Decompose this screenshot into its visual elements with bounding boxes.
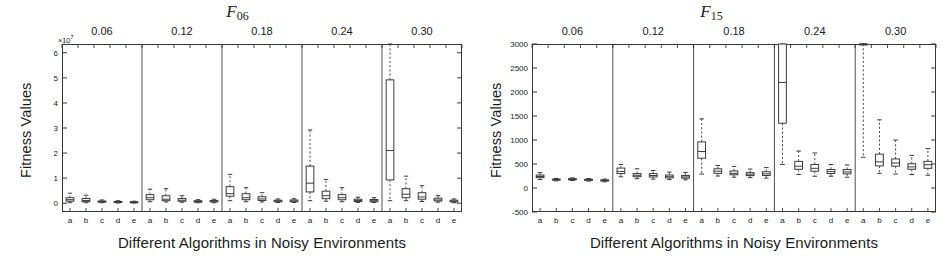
boxplot-box [924, 149, 932, 176]
x-bottom-tick-label: c [570, 216, 574, 225]
x-bottom-tick-label: d [276, 216, 280, 225]
boxplot-box [434, 196, 442, 203]
boxplot-box [418, 186, 426, 202]
boxplot-box [552, 178, 560, 180]
boxplot-box [762, 168, 770, 179]
panel-f06: F06 Fitness Values ×107 Different Algori… [0, 0, 475, 263]
x-bottom-tick-label: d [748, 216, 752, 225]
x-bottom-tick-label: c [894, 216, 898, 225]
boxplot-box [130, 201, 138, 203]
x-bottom-tick-label: a [699, 216, 703, 225]
x-top-tick-label: 0.18 [251, 25, 272, 37]
x-bottom-tick-label: c [260, 216, 264, 225]
x-bottom-tick-label: a [538, 216, 542, 225]
boxplot-box [226, 174, 234, 200]
boxplot-box [354, 197, 362, 202]
x-bottom-tick-label: a [68, 216, 72, 225]
y-tick-label: 1500 [498, 112, 528, 121]
x-bottom-tick-label: a [780, 216, 784, 225]
x-bottom-tick-label: b [877, 216, 881, 225]
x-axis-label-f15: Different Algorithms in Noisy Environmen… [532, 234, 936, 251]
x-bottom-tick-label: e [926, 216, 930, 225]
x-bottom-tick-label: a [861, 216, 865, 225]
x-bottom-tick-label: d [436, 216, 440, 225]
boxplot-box [585, 178, 593, 181]
x-bottom-tick-label: b [635, 216, 639, 225]
x-bottom-tick-label: d [667, 216, 671, 225]
x-bottom-tick-label: e [602, 216, 606, 225]
boxplot-box [370, 198, 378, 203]
y-tick-label: 1000 [498, 136, 528, 145]
x-bottom-tick-label: e [212, 216, 216, 225]
boxplot-box [338, 188, 346, 202]
boxplot-box [617, 164, 625, 176]
x-axis-label-f06: Different Algorithms in Noisy Environmen… [62, 234, 462, 251]
x-top-tick-label: 0.18 [723, 25, 744, 37]
x-bottom-tick-label: e [845, 216, 849, 225]
x-bottom-tick-label: a [388, 216, 392, 225]
boxplot-box [730, 166, 738, 177]
x-bottom-tick-label: e [683, 216, 687, 225]
boxplot-box [98, 200, 106, 203]
x-bottom-tick-label: b [324, 216, 328, 225]
x-bottom-tick-label: c [100, 216, 104, 225]
x-bottom-tick-label: c [732, 216, 736, 225]
x-bottom-tick-label: c [651, 216, 655, 225]
boxplot-box [306, 130, 314, 201]
boxplot-box [274, 199, 282, 203]
x-top-tick-label: 0.24 [804, 25, 825, 37]
x-top-tick-label: 0.12 [171, 25, 192, 37]
y-tick-label: 1 [28, 174, 58, 183]
boxplot-box [146, 189, 154, 202]
boxplot-box [892, 140, 900, 174]
x-bottom-tick-label: d [196, 216, 200, 225]
boxplot-box [242, 188, 250, 202]
x-top-tick-label: 0.24 [331, 25, 352, 37]
y-tick-label: 2 [28, 149, 58, 158]
x-bottom-tick-label: d [356, 216, 360, 225]
x-bottom-tick-label: d [116, 216, 120, 225]
boxplot-box [665, 172, 673, 179]
x-bottom-tick-label: d [586, 216, 590, 225]
boxplot-box [746, 169, 754, 178]
x-bottom-tick-label: a [148, 216, 152, 225]
y-tick-label: 3000 [498, 40, 528, 49]
x-bottom-tick-label: a [228, 216, 232, 225]
boxplot-box [210, 199, 218, 203]
x-bottom-tick-label: b [244, 216, 248, 225]
x-bottom-tick-label: c [340, 216, 344, 225]
panel-f15: F15 Fitness Values Different Algorithms … [474, 0, 949, 263]
boxplot-box [859, 44, 867, 157]
boxplot-box [162, 189, 170, 202]
x-bottom-tick-label: e [292, 216, 296, 225]
boxplot-box [450, 199, 458, 203]
boxplot-box [601, 179, 609, 182]
x-bottom-tick-label: e [452, 216, 456, 225]
x-bottom-tick-label: e [764, 216, 768, 225]
y-tick-label: 5 [28, 73, 58, 82]
boxplot-box [714, 165, 722, 176]
y-tick-label: 4 [28, 98, 58, 107]
x-bottom-tick-label: b [404, 216, 408, 225]
y-tick-label: 3 [28, 124, 58, 133]
x-bottom-tick-label: b [84, 216, 88, 225]
x-bottom-tick-label: b [554, 216, 558, 225]
x-bottom-tick-label: c [813, 216, 817, 225]
boxplot-box [386, 44, 394, 201]
boxplot-box [779, 44, 787, 164]
boxplot-box [795, 151, 803, 175]
y-tick-label: 0 [28, 199, 58, 208]
boxplot-box [633, 169, 641, 179]
boxplot-box [114, 201, 122, 203]
x-top-tick-label: 0.30 [411, 25, 432, 37]
boxplot-box [682, 172, 690, 179]
y-tick-label: 0 [498, 184, 528, 193]
figure-container: F06 Fitness Values ×107 Different Algori… [0, 0, 949, 263]
boxplot-box [322, 179, 330, 201]
boxplot-box [908, 155, 916, 174]
x-top-tick-label: 0.06 [562, 25, 583, 37]
boxplot-box [827, 164, 835, 176]
boxplot-box [811, 153, 819, 176]
y-tick-label: 6 [28, 48, 58, 57]
boxplot-box [194, 200, 202, 203]
